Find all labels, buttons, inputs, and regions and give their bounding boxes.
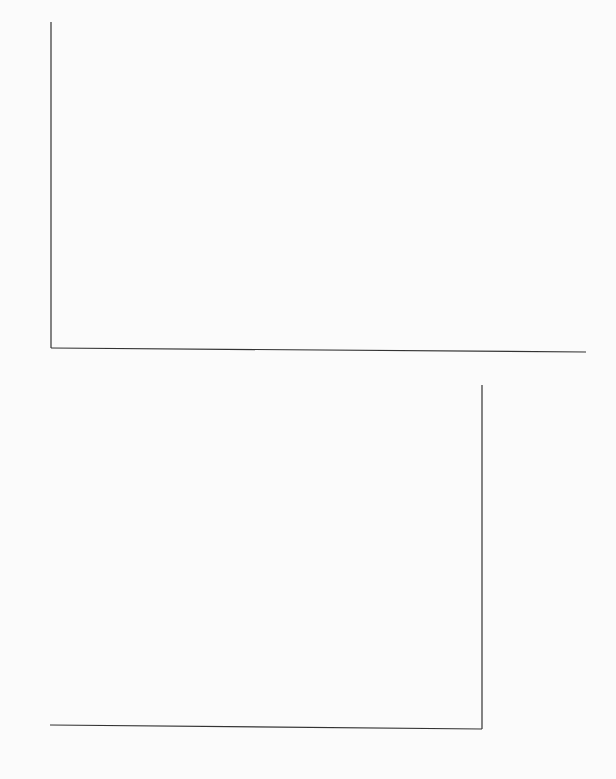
- bottom-panel: [0, 0, 482, 729]
- top-x-axis: [51, 348, 586, 352]
- bottom-x-axis: [50, 725, 482, 729]
- top-panel: [0, 0, 586, 352]
- ir-spectrum-figure: [0, 0, 616, 779]
